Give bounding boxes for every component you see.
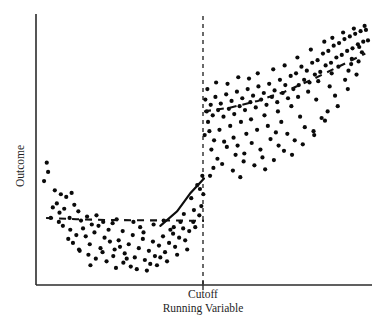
data-point (314, 97, 318, 101)
data-point (303, 125, 307, 129)
data-point (147, 249, 151, 253)
data-point (242, 159, 246, 163)
data-point (296, 95, 300, 99)
data-point (55, 201, 59, 205)
data-point (211, 113, 215, 117)
data-point (330, 36, 334, 40)
scatter-points-layer (42, 24, 370, 273)
data-point (266, 124, 270, 128)
data-point (238, 104, 242, 108)
data-point (141, 237, 145, 241)
data-point (356, 59, 360, 63)
data-point (102, 236, 106, 240)
data-point (217, 128, 221, 132)
data-point (268, 137, 272, 141)
cutoff-tick-label: Cutoff (188, 288, 218, 300)
data-point (262, 113, 266, 117)
data-point (198, 187, 202, 191)
data-point (165, 259, 169, 263)
data-point (90, 222, 94, 226)
left-local-solid-fit (160, 178, 204, 225)
data-point (148, 262, 152, 266)
data-point (316, 79, 320, 83)
data-point (278, 78, 282, 82)
data-point (323, 119, 327, 123)
data-point (333, 94, 337, 98)
data-point (45, 161, 49, 165)
data-point (299, 65, 303, 69)
data-point (283, 63, 287, 67)
data-point (243, 108, 247, 112)
data-point (350, 46, 354, 50)
data-point (81, 226, 85, 230)
data-point (177, 236, 181, 240)
data-point (163, 250, 167, 254)
data-point (276, 144, 280, 148)
data-point (346, 87, 350, 91)
data-point (286, 96, 290, 100)
data-point (197, 213, 201, 217)
data-point (59, 192, 63, 196)
data-point (192, 208, 196, 212)
data-point (294, 71, 298, 75)
data-point (167, 241, 171, 245)
data-point (212, 138, 216, 142)
data-point (215, 157, 219, 161)
data-point (321, 51, 325, 55)
data-point (274, 130, 278, 134)
data-point (358, 29, 362, 33)
data-point (251, 94, 255, 98)
data-point (131, 220, 135, 224)
data-point (250, 141, 254, 145)
data-point (46, 170, 50, 174)
data-point (295, 55, 299, 59)
data-point (62, 207, 66, 211)
data-point (272, 158, 276, 162)
data-point (283, 83, 287, 87)
data-point (354, 73, 358, 77)
data-point (66, 237, 70, 241)
data-point (121, 261, 125, 265)
data-point (254, 105, 258, 109)
data-point (221, 115, 225, 119)
data-point (256, 71, 260, 75)
data-point (77, 247, 81, 251)
data-point (118, 245, 122, 249)
data-point (201, 192, 205, 196)
data-point (70, 191, 74, 195)
data-point (290, 153, 294, 157)
data-point (285, 132, 289, 136)
data-point (263, 167, 267, 171)
data-point (123, 251, 127, 255)
y-axis-label: Outcome (14, 145, 26, 187)
data-point (88, 242, 92, 246)
data-point (258, 147, 262, 151)
data-point (311, 129, 315, 133)
data-point (141, 230, 145, 234)
data-point (113, 247, 117, 251)
data-point (249, 117, 253, 121)
data-point (357, 45, 361, 49)
data-point (61, 224, 65, 228)
data-point (361, 40, 365, 44)
data-point (222, 140, 226, 144)
data-point (322, 40, 326, 44)
data-point (213, 95, 217, 99)
data-point (183, 238, 187, 242)
data-point (153, 254, 157, 258)
data-point (341, 30, 345, 34)
data-point (342, 37, 346, 41)
data-point (200, 174, 204, 178)
data-point (121, 229, 125, 233)
data-point (187, 229, 191, 233)
data-point (224, 92, 228, 96)
data-point (114, 266, 118, 270)
data-point (127, 242, 131, 246)
data-point (42, 179, 46, 183)
data-point (53, 188, 57, 192)
data-point (346, 69, 350, 73)
data-point (229, 99, 233, 103)
data-point (205, 87, 209, 91)
data-point (104, 259, 108, 263)
data-point (242, 151, 246, 155)
